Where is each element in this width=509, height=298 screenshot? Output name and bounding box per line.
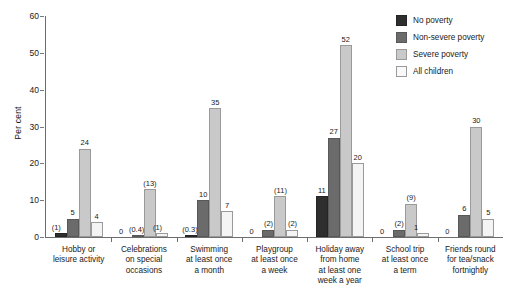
bar-slot: 35 <box>209 16 221 237</box>
y-axis-tick-label: 50 <box>19 49 39 58</box>
bar-slot: 10 <box>197 16 209 237</box>
bar-value-label: 0 <box>119 228 123 236</box>
y-axis-tick-label: 40 <box>19 86 39 95</box>
bar[interactable] <box>132 235 144 237</box>
bar[interactable] <box>274 196 286 237</box>
bar-slot: (1) <box>156 16 168 237</box>
bar-chart: Per cent 0102030405060 (1)52440(0.4)(13)… <box>0 0 509 298</box>
bar-value-label: (1) <box>153 224 162 232</box>
legend-label: No poverty <box>413 16 453 25</box>
bar[interactable] <box>405 204 417 237</box>
bar-slot: 0 <box>250 16 262 237</box>
bar-value-label: 24 <box>80 139 88 147</box>
bar-value-label: 30 <box>472 117 480 125</box>
bar-value-label: 20 <box>354 154 362 162</box>
bar-value-label: 52 <box>342 36 350 44</box>
bar[interactable] <box>55 233 67 237</box>
legend-swatch-icon <box>396 32 407 43</box>
bar[interactable] <box>393 230 405 237</box>
bar[interactable] <box>417 233 429 237</box>
legend-swatch-icon <box>396 49 407 60</box>
bar[interactable] <box>316 196 328 237</box>
y-axis-tick-mark <box>40 237 44 238</box>
bar[interactable] <box>197 200 209 237</box>
bar[interactable] <box>352 163 364 237</box>
bar-slot: 11 <box>316 16 328 237</box>
bar[interactable] <box>185 235 197 237</box>
bar[interactable] <box>458 215 470 237</box>
bar-slot: (2) <box>286 16 298 237</box>
bar-group-bars: 0(0.4)(13)(1) <box>111 16 176 237</box>
bar-slot: (1) <box>55 16 67 237</box>
bar-value-label: (0.4) <box>129 226 144 234</box>
bar-slot: 0 <box>120 16 132 237</box>
x-axis-tick-mark <box>438 238 439 242</box>
bar-value-label: (9) <box>406 194 415 202</box>
y-axis-tick-label: 60 <box>19 12 39 21</box>
bar[interactable] <box>156 233 168 237</box>
bar-group: (0.3)10357 <box>177 16 242 237</box>
x-axis-tick-mark <box>372 238 373 242</box>
bar[interactable] <box>482 219 494 237</box>
bar-value-label: (2) <box>394 220 403 228</box>
bar-group-bars: (0.3)10357 <box>177 16 242 237</box>
bar-slot: (0.4) <box>132 16 144 237</box>
y-axis-tick-label: 0 <box>19 233 39 242</box>
bar-group-bars: 11275220 <box>307 16 372 237</box>
bar-value-label: 0 <box>445 228 449 236</box>
bar-slot: 20 <box>352 16 364 237</box>
x-axis-category-line: fortnightly <box>432 266 509 276</box>
bar[interactable] <box>286 230 298 237</box>
bar-slot: (0.3) <box>185 16 197 237</box>
legend-item[interactable]: All children <box>396 64 509 79</box>
y-axis-tick-mark <box>40 127 44 128</box>
bar[interactable] <box>470 127 482 238</box>
y-axis-tick-label: 30 <box>19 123 39 132</box>
legend: No povertyNon-severe povertySevere pover… <box>396 13 509 81</box>
y-axis-tick-mark <box>40 200 44 201</box>
legend-label: Severe poverty <box>413 50 468 59</box>
bar-slot: 5 <box>67 16 79 237</box>
bar[interactable] <box>79 149 91 237</box>
bar-value-label: 0 <box>380 228 384 236</box>
bar-group: 11275220 <box>307 16 372 237</box>
legend-label: Non-severe poverty <box>413 33 484 42</box>
bar-slot: 27 <box>328 16 340 237</box>
legend-item[interactable]: Non-severe poverty <box>396 30 509 45</box>
bar-group: 0(2)(11)(2) <box>242 16 307 237</box>
x-axis-category-line: week a year <box>301 276 378 286</box>
bar[interactable] <box>209 108 221 237</box>
bar-value-label: (2) <box>288 220 297 228</box>
bar-value-label: (2) <box>264 220 273 228</box>
bar[interactable] <box>328 138 340 237</box>
bar-value-label: 5 <box>486 209 490 217</box>
x-axis-tick-mark <box>242 238 243 242</box>
y-axis-tick-label: 10 <box>19 196 39 205</box>
bar[interactable] <box>67 219 79 237</box>
legend-label: All children <box>413 67 453 76</box>
bar-slot: (2) <box>262 16 274 237</box>
bar-group: (1)5244 <box>46 16 111 237</box>
y-axis-tick-label: 20 <box>19 159 39 168</box>
legend-item[interactable]: No poverty <box>396 13 509 28</box>
bar-group: 0(0.4)(13)(1) <box>111 16 176 237</box>
bar-value-label: 11 <box>318 187 326 195</box>
bar[interactable] <box>262 230 274 237</box>
bar-group-bars: (1)5244 <box>46 16 111 237</box>
bar[interactable] <box>221 211 233 237</box>
y-axis-tick-mark <box>40 163 44 164</box>
legend-item[interactable]: Severe poverty <box>396 47 509 62</box>
x-axis-category-line: Friends round <box>432 245 509 255</box>
legend-swatch-icon <box>396 66 407 77</box>
bar-slot: 7 <box>221 16 233 237</box>
bar-value-label: (13) <box>143 180 156 188</box>
bar-slot: (11) <box>274 16 286 237</box>
y-axis-tick-mark <box>40 16 44 17</box>
bar-slot: 24 <box>79 16 91 237</box>
bar-value-label: 27 <box>330 128 338 136</box>
bar-value-label: 6 <box>462 205 466 213</box>
bar[interactable] <box>340 45 352 237</box>
bar-value-label: 5 <box>71 209 75 217</box>
bar[interactable] <box>91 222 103 237</box>
y-axis-tick-mark <box>40 53 44 54</box>
